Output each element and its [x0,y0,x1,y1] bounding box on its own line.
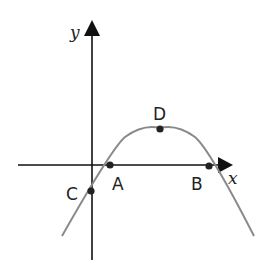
diagram-canvas: y x A B C D [0,0,267,278]
y-axis-label: y [69,22,80,42]
point-d [156,125,163,132]
label-b: B [191,174,203,194]
label-d: D [153,104,166,124]
point-b [205,162,212,169]
x-axis-label: x [228,168,238,188]
point-c [87,187,94,194]
parabola-diagram: y x A B C D [0,0,267,278]
point-a [106,161,113,168]
label-a: A [112,174,124,194]
label-c: C [66,184,78,204]
parabola-curve [62,127,254,236]
y-axis-arrow-icon [84,20,100,36]
